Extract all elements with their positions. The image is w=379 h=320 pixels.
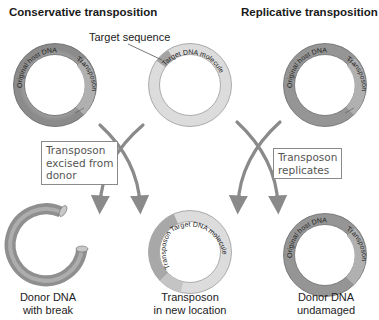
caption-new-location: Transposon in new location bbox=[135, 291, 245, 317]
donor-ring-replicative: Original host DNA Transposon bbox=[284, 44, 369, 127]
svg-text:Original host DNA: Original host DNA bbox=[286, 47, 327, 89]
caption-donor-undamaged-line1: Donor DNA bbox=[271, 291, 379, 304]
svg-text:Original host DNA: Original host DNA bbox=[286, 217, 327, 259]
process-box-excised: Transposon excised from donor bbox=[41, 141, 118, 185]
ring-label-original-host-dna: Original host DNA bbox=[16, 47, 57, 89]
svg-text:Original host DNA: Original host DNA bbox=[16, 47, 57, 89]
process-box-replicates: Transposon replicates bbox=[273, 148, 342, 179]
target-ring-top: Target DNA molecule bbox=[149, 44, 232, 127]
caption-new-location-line2: in new location bbox=[135, 304, 245, 317]
process-box-excised-line3: donor bbox=[46, 169, 113, 182]
target-ring-with-transposon: Target DNA molecule Transposon bbox=[149, 211, 232, 294]
process-box-excised-line1: Transposon bbox=[46, 144, 113, 157]
donor-ring-undamaged: Original host DNA Transposon bbox=[284, 214, 369, 297]
caption-donor-undamaged-line2: undamaged bbox=[271, 304, 379, 317]
process-box-excised-line2: excised from bbox=[46, 157, 113, 170]
caption-donor-break-line1: Donor DNA bbox=[0, 291, 103, 304]
donor-ring-conservative: Original host DNA Transposon bbox=[14, 44, 99, 127]
donor-dna-broken-ring bbox=[10, 204, 88, 280]
caption-new-location-line1: Transposon bbox=[135, 291, 245, 304]
target-sequence-pointer bbox=[128, 44, 162, 60]
caption-donor-undamaged: Donor DNA undamaged bbox=[271, 291, 379, 317]
caption-donor-break: Donor DNA with break bbox=[0, 291, 103, 317]
caption-donor-break-line2: with break bbox=[0, 304, 103, 317]
process-box-replicates-line2: replicates bbox=[278, 164, 337, 177]
process-box-replicates-line1: Transposon bbox=[278, 151, 337, 164]
